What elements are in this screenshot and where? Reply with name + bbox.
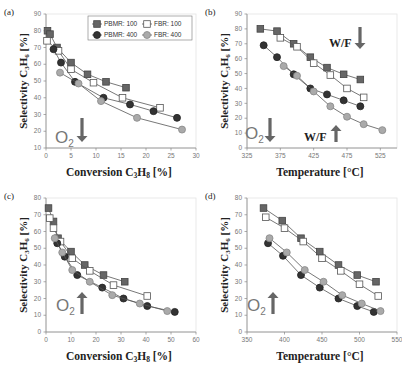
x-tick-label: 15 — [117, 152, 125, 159]
arrow-down-icon — [77, 118, 88, 142]
legend-entry: FBR: 400 — [154, 31, 182, 38]
legend-entry: PBMR: 100 — [104, 20, 138, 27]
wf-annotation: W/F — [304, 130, 327, 144]
y-tick-label: 80 — [34, 27, 42, 34]
x-tick-label: 500 — [354, 336, 365, 343]
panel-label: (a) — [4, 7, 14, 17]
x-tick-label: 60 — [192, 336, 200, 343]
x-tick-label: 50 — [167, 336, 175, 343]
x-axis-label: Temperature [°C] — [276, 166, 363, 179]
x-tick-label: 450 — [317, 336, 328, 343]
y-tick-label: 90 — [34, 10, 42, 17]
chart-panel-c: 010203040506070800102030405060(c)Selecti… — [0, 184, 201, 368]
o2-annotation: O2 — [56, 296, 75, 317]
panel-label: (b) — [205, 7, 216, 17]
x-tick-label: 5 — [69, 152, 73, 159]
chart-panel-d: 01020304050607080350400450500550(d)Selec… — [201, 184, 402, 368]
y-tick-label: 90 — [235, 10, 243, 17]
x-tick-label: 10 — [92, 152, 100, 159]
y-tick-label: 10 — [34, 311, 42, 318]
panel-label: (d) — [205, 191, 216, 201]
x-tick-label: 350 — [242, 336, 253, 343]
x-axis-label: Conversion C3H8 [%] — [66, 350, 172, 364]
x-tick-label: 0 — [44, 152, 48, 159]
y-tick-label: 40 — [34, 261, 42, 268]
y-tick-label: 30 — [235, 100, 243, 107]
x-axis-label: Conversion C3H8 [%] — [66, 166, 172, 180]
y-tick-label: 0 — [238, 144, 242, 151]
x-tick-label: 0 — [44, 336, 48, 343]
legend: PBMR: 100FBR: 100PBMR: 400FBR: 400 — [88, 16, 192, 40]
y-axis-label: Selectivity C3H6 [%] — [17, 217, 31, 313]
x-axis-label: Temperature [°C] — [276, 350, 363, 363]
x-tick-label: 400 — [279, 336, 290, 343]
x-tick-label: 20 — [92, 336, 100, 343]
y-tick-label: 40 — [235, 85, 243, 92]
y-axis-label: Selectivity C3H6 [%] — [218, 33, 232, 129]
legend-entry: PBMR: 400 — [104, 31, 138, 38]
y-tick-label: 50 — [235, 244, 243, 251]
y-tick-label: 80 — [34, 194, 42, 201]
y-tick-label: 30 — [34, 111, 42, 118]
x-tick-label: 475 — [342, 152, 353, 159]
y-tick-label: 60 — [34, 228, 42, 235]
y-tick-label: 60 — [235, 55, 243, 62]
o2-annotation: O2 — [55, 128, 74, 149]
x-tick-label: 375 — [275, 152, 286, 159]
wf-annotation: W/F — [329, 36, 352, 50]
y-tick-label: 50 — [34, 244, 42, 251]
arrow-up-icon — [268, 292, 279, 314]
x-tick-label: 20 — [142, 152, 150, 159]
x-tick-label: 40 — [142, 336, 150, 343]
y-tick-label: 40 — [34, 94, 42, 101]
y-tick-label: 70 — [34, 211, 42, 218]
y-tick-label: 10 — [235, 129, 243, 136]
arrow-down-icon — [265, 118, 276, 142]
y-tick-label: 20 — [235, 114, 243, 121]
x-tick-label: 30 — [192, 152, 200, 159]
y-tick-label: 10 — [235, 311, 243, 318]
o2-annotation: O2 — [245, 124, 264, 145]
y-tick-label: 70 — [235, 40, 243, 47]
y-tick-label: 80 — [235, 25, 243, 32]
y-tick-label: 10 — [34, 144, 42, 151]
x-tick-label: 25 — [167, 152, 175, 159]
x-tick-label: 425 — [308, 152, 319, 159]
y-tick-label: 20 — [235, 295, 243, 302]
legend-entry: FBR: 100 — [154, 20, 182, 27]
y-tick-label: 50 — [34, 77, 42, 84]
x-tick-label: 10 — [67, 336, 75, 343]
y-tick-label: 0 — [37, 328, 41, 335]
y-tick-label: 0 — [238, 328, 242, 335]
y-tick-label: 30 — [235, 278, 243, 285]
y-tick-label: 70 — [235, 211, 243, 218]
y-tick-label: 40 — [235, 261, 243, 268]
y-axis-label: Selectivity C3H6 [%] — [17, 33, 31, 129]
chart-panel-b: 0102030405060708090325375425475525(b)Sel… — [201, 0, 402, 184]
y-tick-label: 80 — [235, 194, 243, 201]
x-tick-label: 550 — [392, 336, 402, 343]
y-tick-label: 20 — [34, 127, 42, 134]
panel-label: (c) — [4, 191, 14, 201]
chart-panel-a: 102030405060708090051015202530(a)Selecti… — [0, 0, 201, 184]
y-tick-label: 70 — [34, 44, 42, 51]
series-pbmr-100 — [257, 26, 364, 83]
x-tick-label: 30 — [117, 336, 125, 343]
y-axis-label: Selectivity C3H6 [%] — [218, 217, 232, 313]
y-tick-label: 30 — [34, 278, 42, 285]
y-tick-label: 50 — [235, 70, 243, 77]
arrow-up-icon — [331, 125, 342, 142]
y-tick-label: 20 — [34, 295, 42, 302]
y-tick-label: 60 — [235, 228, 243, 235]
arrow-down-icon — [355, 27, 366, 49]
series-fbr-400 — [266, 235, 384, 315]
o2-annotation: O2 — [247, 296, 266, 317]
arrow-up-icon — [77, 292, 88, 314]
x-tick-label: 325 — [242, 152, 253, 159]
x-tick-label: 525 — [375, 152, 386, 159]
y-tick-label: 60 — [34, 60, 42, 67]
